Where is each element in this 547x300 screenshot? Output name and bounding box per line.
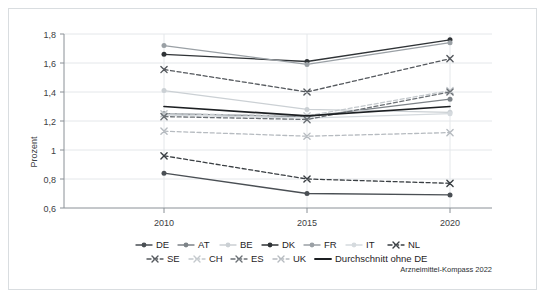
- y-tick-label-1-8: 1,8: [43, 30, 56, 40]
- x-axis: 2010 2015 2020: [64, 208, 492, 228]
- data-point: [448, 40, 453, 45]
- y-tick-label-1-2: 1,2: [43, 117, 56, 127]
- line-chart-svg: Prozent 1,8 1,6 1,4 1,2 1 0,8 0,6: [0, 0, 547, 300]
- y-tick-label-0-6: 0,6: [43, 204, 56, 214]
- legend-label: CH: [209, 253, 223, 264]
- chart-credit: Arzneimittel-Kompass 2022: [400, 265, 492, 274]
- legend-marker-circle-icon: [352, 243, 357, 248]
- legend-item-uk[interactable]: UK: [273, 253, 307, 264]
- x-tick-label-2020: 2020: [440, 218, 460, 228]
- legend-marker-circle-icon: [226, 243, 231, 248]
- x-tick-label-2010: 2010: [154, 218, 174, 228]
- data-point: [305, 62, 310, 67]
- y-tick-label-1: 1: [51, 146, 56, 156]
- legend-marker-circle-icon: [142, 243, 147, 248]
- data-point: [162, 43, 167, 48]
- data-point: [162, 88, 167, 93]
- legend-item-se[interactable]: SE: [147, 253, 180, 264]
- legend-marker-circle-icon: [310, 243, 315, 248]
- data-point: [305, 191, 310, 196]
- y-tick-label-1-6: 1,6: [43, 59, 56, 69]
- chart-container: Prozent 1,8 1,6 1,4 1,2 1 0,8 0,6: [0, 0, 547, 300]
- legend-label: FR: [324, 239, 337, 250]
- legend-item-be[interactable]: BE: [220, 239, 253, 250]
- legend-item-fr[interactable]: FR: [304, 239, 337, 250]
- y-axis-gridlines: [64, 34, 492, 179]
- data-point: [448, 111, 453, 116]
- y-tick-label-0-8: 0,8: [43, 175, 56, 185]
- legend-item-it[interactable]: IT: [346, 239, 375, 250]
- legend-label: UK: [293, 253, 307, 264]
- legend-item-durchschnitt-ohne-de[interactable]: Durchschnitt ohne DE: [315, 253, 427, 264]
- x-tick-label-2015: 2015: [297, 218, 317, 228]
- legend-label: IT: [366, 239, 375, 250]
- legend-label: Durchschnitt ohne DE: [335, 253, 427, 264]
- legend-label: ES: [251, 253, 264, 264]
- legend-label: DK: [282, 239, 296, 250]
- legend-item-de[interactable]: DE: [136, 239, 169, 250]
- y-axis: 1,8 1,6 1,4 1,2 1 0,8 0,6: [43, 30, 64, 214]
- data-point: [448, 97, 453, 102]
- legend-marker-circle-icon: [184, 243, 189, 248]
- y-axis-title: Prozent: [29, 136, 39, 168]
- legend-item-es[interactable]: ES: [231, 253, 264, 264]
- legend-label: AT: [198, 239, 210, 250]
- data-point: [162, 171, 167, 176]
- data-point: [448, 192, 453, 197]
- legend-label: BE: [240, 239, 253, 250]
- data-point: [162, 52, 167, 57]
- legend-label: SE: [167, 253, 180, 264]
- legend-item-nl[interactable]: NL: [388, 239, 420, 250]
- legend-item-at[interactable]: AT: [178, 239, 210, 250]
- chart-legend: DEATBEDKFRITNLSECHESUKDurchschnitt ohne …: [136, 239, 427, 264]
- legend-item-ch[interactable]: CH: [189, 253, 223, 264]
- legend-label: NL: [408, 239, 420, 250]
- data-point: [305, 107, 310, 112]
- legend-label: DE: [156, 239, 169, 250]
- legend-marker-circle-icon: [268, 243, 273, 248]
- y-tick-label-1-4: 1,4: [43, 88, 56, 98]
- legend-item-dk[interactable]: DK: [262, 239, 296, 250]
